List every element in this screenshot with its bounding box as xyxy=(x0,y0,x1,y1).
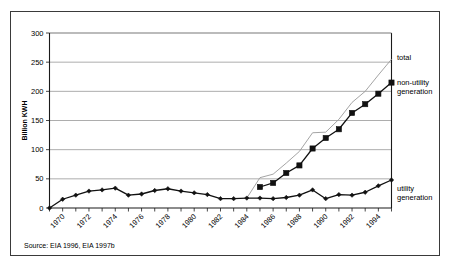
x-tick-label: 1988 xyxy=(285,212,303,230)
gridlines xyxy=(50,33,392,179)
x-axis-ticks: 1970197219741976197819801982198419861988… xyxy=(48,208,391,230)
series-label-utility-generation: utilitygeneration xyxy=(397,184,432,202)
series-non-utility-generation xyxy=(257,80,394,190)
source-note: Source: EIA 1996, EIA 1997b xyxy=(24,242,115,249)
x-tick-label: 1986 xyxy=(259,212,277,230)
x-tick-label: 1994 xyxy=(364,212,382,230)
data-point-marker xyxy=(284,170,289,175)
y-tick-label: 300 xyxy=(31,29,44,38)
x-tick-label: 1990 xyxy=(311,212,329,230)
y-tick-label: 100 xyxy=(31,145,44,154)
x-tick-label: 1976 xyxy=(127,212,145,230)
series-line xyxy=(260,83,392,187)
data-point-marker xyxy=(218,196,222,200)
y-tick-label: 250 xyxy=(31,58,44,67)
series-total xyxy=(247,59,392,198)
series-label-line: generation xyxy=(397,87,432,96)
data-point-marker xyxy=(153,188,157,192)
data-point-marker xyxy=(363,190,367,194)
data-point-marker xyxy=(376,184,380,188)
data-point-marker xyxy=(363,102,368,107)
data-point-marker xyxy=(74,193,78,197)
data-point-marker xyxy=(271,196,275,200)
y-tick-label: 150 xyxy=(31,116,44,125)
x-tick-label: 1978 xyxy=(154,212,172,230)
data-point-marker xyxy=(297,193,301,197)
x-tick-label: 1980 xyxy=(180,212,198,230)
series-label-line: generation xyxy=(397,193,432,202)
data-point-marker xyxy=(245,196,249,200)
data-point-marker xyxy=(389,178,393,182)
series-label-line: total xyxy=(397,53,412,62)
y-tick-label: 50 xyxy=(35,174,43,183)
data-point-marker xyxy=(284,195,288,199)
x-tick-label: 1970 xyxy=(48,212,66,230)
data-point-marker xyxy=(87,189,91,193)
data-point-marker xyxy=(257,184,262,189)
data-point-marker xyxy=(179,189,183,193)
data-point-marker xyxy=(350,193,354,197)
data-point-marker xyxy=(258,196,262,200)
x-tick-label: 1992 xyxy=(338,212,356,230)
data-point-marker xyxy=(349,110,354,115)
data-point-marker xyxy=(192,191,196,195)
data-point-marker xyxy=(310,146,315,151)
line-chart: 050100150200250300Billion KWH19701972197… xyxy=(0,0,452,269)
x-tick-label: 1974 xyxy=(101,212,119,230)
x-tick-label: 1984 xyxy=(233,212,251,230)
x-tick-label: 1972 xyxy=(75,212,93,230)
data-point-marker xyxy=(376,91,381,96)
y-axis-ticks: 050100150200250300 xyxy=(31,29,50,213)
series-line xyxy=(247,59,392,198)
y-tick-label: 200 xyxy=(31,87,44,96)
series-label-total: total xyxy=(397,53,412,62)
data-point-marker xyxy=(231,196,235,200)
data-point-marker xyxy=(271,180,276,185)
data-point-marker xyxy=(337,192,341,196)
series-utility-generation xyxy=(47,178,393,210)
chart-figure: 050100150200250300Billion KWH19701972197… xyxy=(0,0,452,269)
series-label-line: non-utility xyxy=(397,78,429,87)
data-point-marker xyxy=(205,192,209,196)
data-point-marker xyxy=(323,135,328,140)
x-tick-label: 1982 xyxy=(206,212,224,230)
data-point-marker xyxy=(336,127,341,132)
data-point-marker xyxy=(166,187,170,191)
series-label-non-utility-generation: non-utilitygeneration xyxy=(397,78,432,96)
series-label-line: utility xyxy=(397,184,414,193)
data-point-marker xyxy=(139,192,143,196)
data-point-marker xyxy=(389,80,394,85)
y-axis-title: Billion KWH xyxy=(21,100,28,140)
data-point-marker xyxy=(297,163,302,168)
data-point-marker xyxy=(100,188,104,192)
y-tick-label: 0 xyxy=(39,204,43,213)
